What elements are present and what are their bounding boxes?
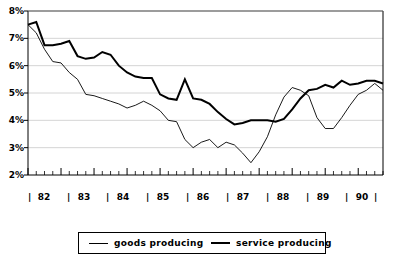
x-axis-tick-label-89: 89: [312, 192, 334, 202]
chart-container: 8% 7% 6% 5% 4% 3% 2% | 82 | 83 | 84 | 85…: [0, 0, 400, 260]
x-axis-separator-1: |: [67, 192, 70, 202]
y-axis-tick-label-2: 2%: [2, 170, 24, 180]
x-axis-separator-0: |: [28, 192, 31, 202]
y-axis-tick-label-8: 8%: [2, 6, 24, 16]
x-axis-ticks: [28, 168, 383, 175]
line-chart-plot: [0, 0, 400, 260]
x-axis-separator-8: |: [345, 192, 348, 202]
x-axis-separator-3: |: [146, 192, 149, 202]
gridlines: [28, 11, 383, 148]
legend-label-goods-producing: goods producing: [114, 238, 203, 248]
x-axis-tick-label-84: 84: [112, 192, 134, 202]
legend-entry-goods-producing: goods producing: [89, 233, 203, 253]
y-axis-tick-label-5: 5%: [2, 88, 24, 98]
x-axis-tick-label-83: 83: [73, 192, 95, 202]
x-axis-separator-5: |: [226, 192, 229, 202]
x-axis-tick-label-85: 85: [152, 192, 174, 202]
legend-entry-service-producing: service producing: [211, 233, 332, 253]
x-axis-tick-label-86: 86: [192, 192, 214, 202]
y-axis-tick-label-6: 6%: [2, 61, 24, 71]
x-axis-tick-label-82: 82: [33, 192, 55, 202]
y-axis-ticks: [24, 11, 28, 175]
x-axis-separator-7: |: [306, 192, 309, 202]
legend: goods producing service producing: [78, 232, 326, 254]
x-axis-tick-label-88: 88: [272, 192, 294, 202]
y-axis-tick-label-3: 3%: [2, 143, 24, 153]
legend-label-service-producing: service producing: [236, 238, 332, 248]
x-axis-tick-label-90: 90: [351, 192, 373, 202]
x-axis-separator-6: |: [266, 192, 269, 202]
x-axis-tick-label-87: 87: [232, 192, 254, 202]
y-axis-tick-label-4: 4%: [2, 115, 24, 125]
x-axis-separator-9: |: [374, 192, 377, 202]
data-series: [28, 22, 383, 163]
legend-line-swatch-thin: [89, 243, 108, 244]
x-axis-separator-4: |: [186, 192, 189, 202]
y-axis-tick-label-7: 7%: [2, 33, 24, 43]
x-axis-separator-2: |: [106, 192, 109, 202]
legend-line-swatch-thick: [211, 242, 230, 244]
